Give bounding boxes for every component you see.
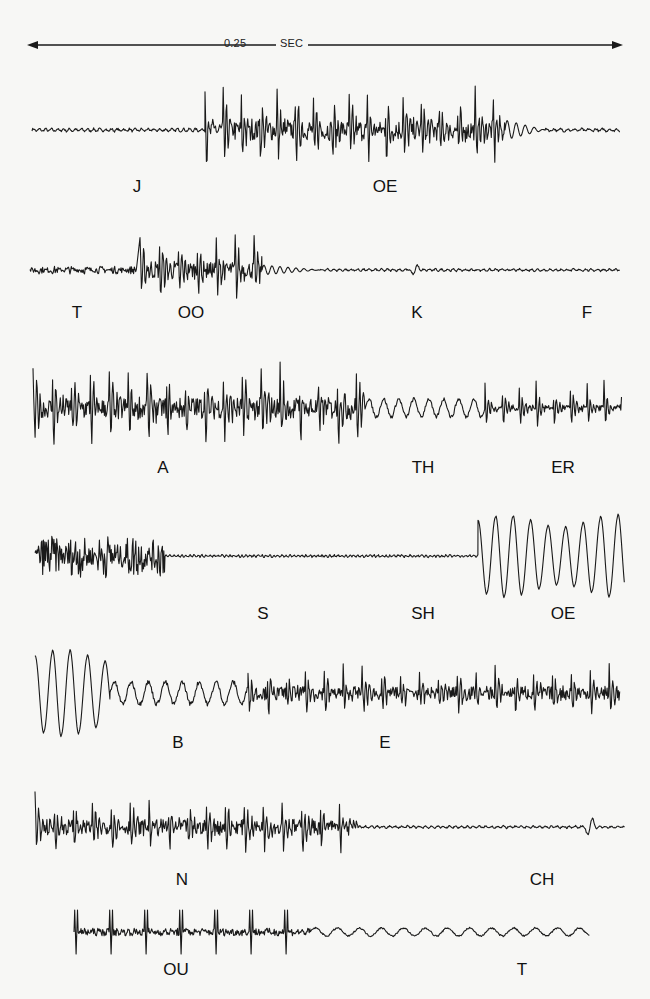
waveform-line [33,362,622,444]
waveform-line [30,235,620,298]
waveform-trace-2 [30,235,620,298]
phoneme-label: B [172,734,183,751]
waveform-panel [0,0,650,999]
phoneme-label: K [411,304,422,321]
phoneme-label: OE [373,178,398,195]
phoneme-label: CH [530,871,555,888]
phoneme-label: J [133,178,142,195]
phoneme-label: S [257,605,268,622]
waveform-trace-4 [35,514,624,598]
waveform-trace-7 [74,910,589,954]
waveform-line [74,910,589,954]
phoneme-label: E [379,734,390,751]
waveform-trace-1 [32,86,620,162]
phoneme-label: SH [411,605,435,622]
phoneme-label: OE [551,605,576,622]
phoneme-label: OO [178,304,204,321]
waveform-line [32,86,620,162]
phoneme-label: TH [412,459,435,476]
phoneme-label: ER [551,459,575,476]
waveform-line [35,514,624,598]
waveform-line [35,650,620,737]
phoneme-label: A [157,459,168,476]
phoneme-label: F [582,304,592,321]
waveform-trace-6 [35,791,625,852]
phoneme-label: N [176,871,188,888]
waveform-line [35,791,625,852]
phoneme-label: T [517,961,527,978]
phoneme-label: OU [163,961,189,978]
waveform-trace-3 [33,362,622,444]
waveform-trace-5 [35,650,620,737]
phoneme-label: T [72,304,82,321]
